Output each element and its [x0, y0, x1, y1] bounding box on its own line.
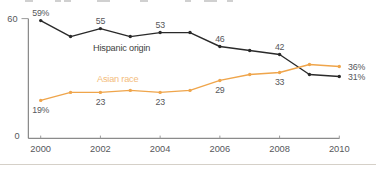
data-point	[308, 63, 311, 66]
data-point	[218, 79, 221, 82]
point-label: 46	[215, 34, 225, 44]
x-tick-label: 2004	[150, 144, 171, 154]
series-label-1: Asian race	[97, 74, 138, 84]
data-point	[248, 49, 251, 52]
data-point	[99, 27, 102, 30]
data-point	[188, 31, 191, 34]
data-point	[218, 45, 221, 48]
data-point	[69, 35, 72, 38]
point-label: 36%	[348, 62, 365, 72]
x-tick-label: 2008	[269, 144, 290, 154]
point-label: 59%	[32, 8, 49, 18]
x-tick-label: 2002	[90, 144, 111, 154]
x-tick-label: 2000	[30, 144, 51, 154]
y-tick-label: 0	[14, 131, 19, 141]
point-label: 55	[96, 16, 106, 26]
data-point	[129, 89, 132, 92]
data-point	[39, 99, 42, 102]
data-point	[248, 73, 251, 76]
data-point	[158, 31, 161, 34]
data-point	[278, 53, 281, 56]
line-chart: 60020002002200420062008201059%5553464231…	[0, 0, 376, 162]
point-label: 53	[155, 20, 165, 30]
data-point	[278, 71, 281, 74]
series-label-0: Hispanic origin	[93, 43, 150, 53]
series-line-1	[41, 65, 340, 101]
data-point	[308, 73, 311, 76]
chart-canvas: 60020002002200420062008201059%5553464231…	[0, 0, 376, 171]
data-point	[338, 65, 341, 68]
x-tick-label: 2006	[210, 144, 231, 154]
point-label: 33	[275, 77, 285, 87]
data-point	[158, 91, 161, 94]
data-point	[129, 35, 132, 38]
y-tick-label: 60	[7, 14, 17, 24]
data-point	[39, 19, 42, 22]
data-point	[338, 75, 341, 78]
point-label: 19%	[32, 105, 49, 115]
data-point	[99, 91, 102, 94]
bottom-divider	[0, 164, 376, 165]
data-point	[69, 91, 72, 94]
x-tick-label: 2010	[329, 144, 350, 154]
point-label: 31%	[348, 72, 365, 82]
point-label: 23	[96, 97, 106, 107]
point-label: 42	[275, 42, 285, 52]
point-label: 23	[155, 97, 165, 107]
data-point	[188, 89, 191, 92]
point-label: 29	[215, 85, 225, 95]
